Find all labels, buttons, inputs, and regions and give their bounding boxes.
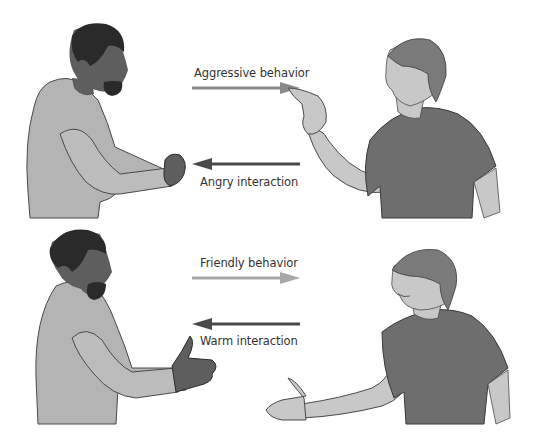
angry-interaction-label: Angry interaction — [200, 175, 298, 189]
boy-pointing-figure — [288, 36, 508, 218]
boy-handshake-figure — [262, 248, 512, 438]
right-arrow-icon — [192, 82, 302, 94]
scene-hostile: Aggressive behavior Angry interaction — [0, 0, 534, 222]
left-arrow-icon — [190, 158, 302, 170]
scene-friendly: Friendly behavior Warm interaction — [0, 222, 534, 447]
man-fist-figure — [20, 22, 195, 217]
